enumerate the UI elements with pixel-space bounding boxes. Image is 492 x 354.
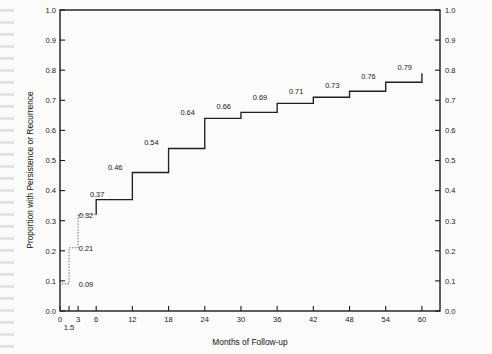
y-tick-label-left: 0.6	[45, 126, 56, 135]
data-point-label: 0.76	[361, 72, 375, 81]
y-tick-label-right: 0.5	[445, 156, 456, 165]
data-point-label: 0.46	[108, 163, 122, 172]
x-tick-label: 12	[128, 315, 136, 324]
y-tick-label-right: 0.4	[445, 186, 456, 195]
y-tick-label-right: 0.9	[445, 36, 456, 45]
y-tick-label-left: 0.0	[45, 307, 56, 316]
data-point-label: 0.71	[289, 87, 303, 96]
data-point-label: 0.64	[180, 108, 194, 117]
y-tick-label-left: 0.4	[45, 186, 56, 195]
y-axis-title: Proportion with Persistence or Recurrenc…	[25, 91, 35, 249]
y-tick-label-right: 0.0	[445, 307, 456, 316]
x-tick-label: 30	[237, 315, 245, 324]
step-curve-early-segment	[60, 215, 96, 311]
y-tick-label-left: 0.7	[45, 96, 56, 105]
x-tick-label: 6	[94, 315, 98, 324]
data-point-label: 0.66	[217, 102, 231, 111]
data-point-label: 0.21	[79, 244, 93, 253]
y-tick-label-left: 0.8	[45, 66, 56, 75]
x-tick-label: 48	[345, 315, 353, 324]
data-point-label: 0.54	[144, 138, 158, 147]
data-point-label: 0.32	[79, 211, 93, 220]
y-tick-label-left: 0.3	[45, 217, 56, 226]
x-tick-label: 36	[273, 315, 281, 324]
x-axis-tick-labels: 01.536121824303642485460	[58, 315, 426, 332]
y-axis-right-tick-labels: 0.00.10.20.30.40.50.60.70.80.91.0	[445, 6, 456, 316]
x-tick-label: 54	[381, 315, 389, 324]
y-axis-right-ticks	[435, 10, 440, 311]
y-axis-left-ticks	[60, 10, 65, 311]
x-tick-label: 18	[164, 315, 172, 324]
data-point-label: 0.09	[79, 280, 93, 289]
data-point-label: 0.79	[398, 63, 412, 72]
data-point-label: 0.37	[90, 190, 104, 199]
y-tick-label-left: 1.0	[45, 6, 56, 15]
y-tick-label-left: 0.1	[45, 277, 56, 286]
x-axis-title: Months of Follow-up	[212, 337, 288, 347]
data-point-labels: 0.090.210.320.370.460.540.640.660.690.71…	[79, 63, 412, 289]
y-tick-label-right: 1.0	[445, 6, 456, 15]
x-tick-label: 1.5	[64, 323, 75, 332]
y-tick-label-right: 0.8	[445, 66, 456, 75]
data-point-label: 0.69	[253, 93, 267, 102]
y-tick-label-left: 0.5	[45, 156, 56, 165]
plot-frame	[60, 10, 440, 311]
x-tick-label: 3	[76, 315, 80, 324]
y-tick-label-right: 0.2	[445, 247, 456, 256]
y-axis-left-tick-labels: 0.00.10.20.30.40.50.60.70.80.91.0	[45, 6, 56, 316]
y-tick-label-right: 0.7	[445, 96, 456, 105]
data-point-label: 0.73	[325, 81, 339, 90]
x-tick-label: 60	[418, 315, 426, 324]
y-tick-label-right: 0.1	[445, 277, 456, 286]
y-tick-label-right: 0.6	[445, 126, 456, 135]
x-tick-label: 0	[58, 315, 62, 324]
y-tick-label-left: 0.2	[45, 247, 56, 256]
x-axis-ticks	[60, 306, 422, 311]
x-tick-label: 42	[309, 315, 317, 324]
figure-page: 0.00.10.20.30.40.50.60.70.80.91.0 0.00.1…	[0, 0, 492, 354]
kaplan-meier-step-chart: 0.00.10.20.30.40.50.60.70.80.91.0 0.00.1…	[0, 0, 492, 354]
y-tick-label-left: 0.9	[45, 36, 56, 45]
y-tick-label-right: 0.3	[445, 217, 456, 226]
x-tick-label: 24	[201, 315, 209, 324]
